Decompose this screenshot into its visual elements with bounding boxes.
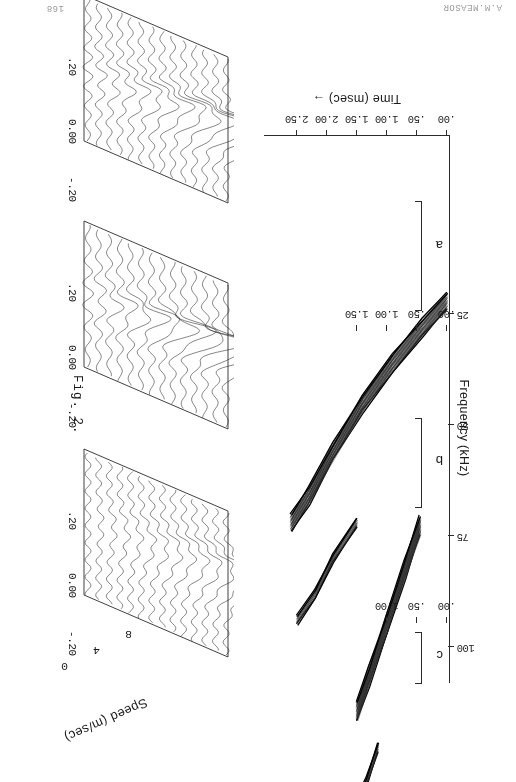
time-label-a-5: 2.50	[285, 113, 308, 125]
frequency-axis-title: Frequency (kHz)	[457, 348, 471, 508]
panel-bracket-c	[415, 632, 422, 684]
amp-label-b-zero: 0.00	[66, 345, 78, 370]
spectrogram-figure: 100 75 50 25 Frequency (kHz) .00 .50 1.0…	[240, 113, 488, 697]
panel-a-waterfall	[44, 0, 234, 207]
speed-label-0: 0	[61, 660, 68, 673]
time-label-a-0: .00	[438, 113, 455, 125]
spectrogram-axes: 100 75 50 25 Frequency (kHz) .00 .50 1.0…	[264, 135, 450, 683]
panel-c-waterfall	[44, 445, 234, 661]
amp-label-b-pos: .20	[66, 283, 78, 302]
freq-label-25: 25	[457, 309, 483, 321]
amp-label-a-pos: .20	[66, 57, 78, 76]
time-label-a-4: 2.00	[315, 113, 338, 125]
panel-c-waterfall-svg	[44, 445, 234, 661]
amp-label-c-pos: .20	[66, 511, 78, 530]
time-label-a-3: 1.50	[345, 113, 368, 125]
time-axis-title: Time (msec) →	[264, 92, 449, 106]
panel-label-c: c	[437, 648, 444, 663]
time-label-a-1: .50	[408, 113, 425, 125]
running-head-author: A.M.MEASOR	[443, 2, 502, 12]
panel-a-waterfall-svg	[44, 0, 234, 207]
speed-axis-title: Speed (m/sec)	[0, 695, 150, 782]
freq-label-75: 75	[457, 531, 483, 543]
amp-label-c-zero: 0.00	[66, 573, 78, 598]
amp-label-a-zero: 0.00	[66, 119, 78, 144]
amp-label-a-neg: -.20	[66, 177, 78, 202]
figure-caption: Fig. 2.	[70, 375, 84, 435]
amp-label-c-neg: -.20	[66, 631, 78, 656]
spectrogram-trace-c	[263, 135, 449, 683]
waterfall-figure: Speed (m/sec) 0 4 8 -.20 0.00 .20 -.20 0…	[6, 7, 234, 707]
time-label-a-2: 1.00	[375, 113, 398, 125]
freq-label-100: 100	[457, 642, 483, 654]
